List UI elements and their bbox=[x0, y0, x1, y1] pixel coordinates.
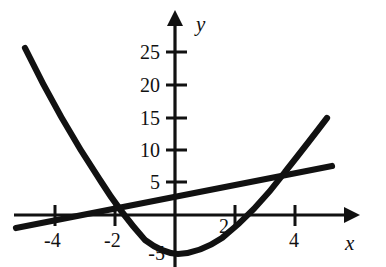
plot-canvas bbox=[0, 0, 386, 267]
x-axis-tick-label-2: 2 bbox=[219, 216, 229, 236]
y-axis-tick-label-5: 5 bbox=[120, 172, 160, 192]
y-axis-tick-label-15: 15 bbox=[120, 108, 160, 128]
x-axis-tick-label--2: -2 bbox=[104, 230, 121, 250]
x-axis-tick-label--4: -4 bbox=[44, 230, 61, 250]
x-axis-arrowhead bbox=[344, 207, 360, 223]
graph-figure: 25 20 15 10 5 -5 -4 -2 2 4 y x bbox=[0, 0, 386, 267]
y-axis-tick-label-25: 25 bbox=[120, 42, 160, 62]
y-axis-name-label: y bbox=[196, 14, 205, 35]
y-axis-tick-label--5: -5 bbox=[125, 243, 165, 263]
x-axis-tick-label-4: 4 bbox=[289, 230, 299, 250]
y-axis-arrowhead bbox=[167, 10, 183, 26]
y-axis-tick-label-10: 10 bbox=[120, 140, 160, 160]
y-axis-tick-label-20: 20 bbox=[120, 75, 160, 95]
x-axis-name-label: x bbox=[345, 233, 354, 254]
